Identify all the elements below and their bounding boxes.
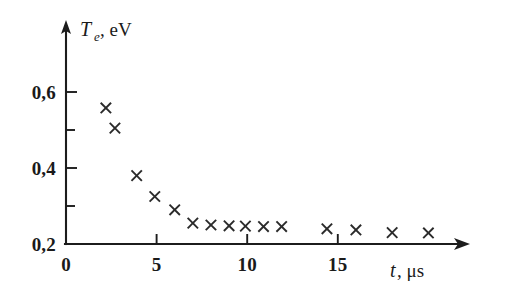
y-axis-tick-label: 0,2 (32, 234, 56, 255)
data-point (276, 221, 286, 231)
x-axis-tick-labels: 051015 (61, 254, 347, 275)
scatter-plot-canvas: 0,20,40,6 051015 T e , eV t , μs (0, 0, 509, 298)
data-point (351, 225, 361, 235)
y-axis-tick-label: 0,4 (32, 158, 57, 179)
x-axis-title: t , μs (390, 259, 424, 281)
chart-figure: 0,20,40,6 051015 T e , eV t , μs (0, 0, 509, 298)
data-point-series (101, 103, 434, 238)
y-axis-title-unit: , eV (100, 19, 132, 40)
data-point (101, 103, 111, 113)
x-axis-tick-label: 10 (237, 254, 256, 275)
x-axis-tick-label: 0 (61, 254, 71, 275)
y-axis-title-symbol: T (80, 18, 93, 40)
data-point (387, 227, 397, 237)
data-point (240, 221, 250, 231)
x-axis-tick-label: 5 (152, 254, 162, 275)
data-point (322, 224, 332, 234)
x-axis-title-symbol: t (390, 259, 396, 281)
x-axis-ticks (157, 234, 338, 244)
x-axis-tick-label: 15 (328, 254, 347, 275)
y-axis-ticks (66, 92, 77, 244)
data-point (206, 220, 216, 230)
x-axis-title-unit: , μs (397, 260, 424, 281)
y-axis: 0,20,40,6 (32, 20, 77, 255)
y-axis-title: T e , eV (80, 18, 132, 44)
data-point (423, 228, 433, 238)
y-axis-tick-label: 0,6 (32, 82, 56, 103)
data-point (150, 191, 160, 201)
data-point (188, 218, 198, 228)
y-axis-tick-labels: 0,20,40,6 (32, 82, 57, 255)
data-point (224, 221, 234, 231)
data-point (110, 123, 120, 133)
data-point (170, 205, 180, 215)
data-point (258, 221, 268, 231)
data-point (131, 170, 141, 180)
